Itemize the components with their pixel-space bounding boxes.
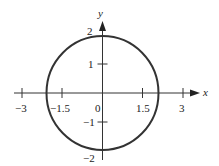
y-tick-label-neg1: −1 (83, 116, 95, 128)
x-axis-arrow-icon (190, 90, 200, 97)
x-tick-label-3: 3 (179, 102, 185, 114)
coordinate-plane-diagram: x y −3 −1.5 1.5 3 0 2 1 −1 −2 (0, 0, 219, 166)
x-tick-label-neg3: −3 (15, 102, 27, 114)
y-tick-label-1: 1 (88, 58, 94, 70)
y-tick-label-neg2: −2 (83, 152, 95, 164)
diagram-svg: x y −3 −1.5 1.5 3 0 2 1 −1 −2 (0, 0, 219, 166)
y-axis-arrow-icon (99, 21, 106, 31)
y-axis-label: y (97, 7, 103, 19)
x-axis-label: x (202, 86, 208, 98)
y-tick-label-2: 2 (87, 25, 93, 37)
origin-label: 0 (95, 102, 101, 114)
x-tick-label-1_5: 1.5 (136, 102, 150, 114)
x-tick-label-neg1_5: −1.5 (50, 102, 70, 114)
